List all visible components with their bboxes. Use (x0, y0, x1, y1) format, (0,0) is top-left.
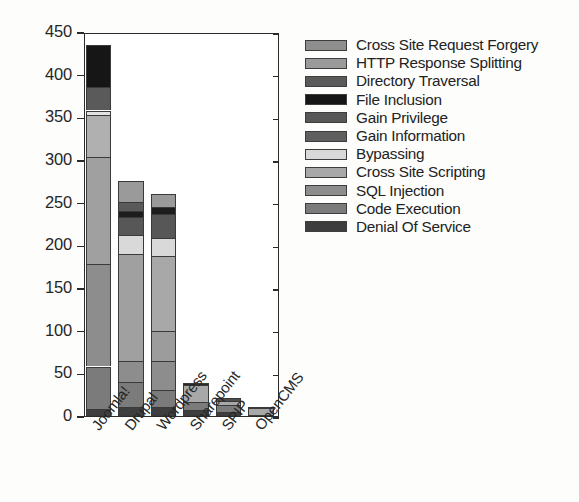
y-axis-tick-mark (77, 118, 84, 120)
legend-item[interactable]: Code Execution (305, 200, 577, 218)
bar-segment[interactable] (118, 181, 144, 201)
legend-item[interactable]: Gain Privilege (305, 109, 577, 127)
legend-item[interactable]: Gain Information (305, 127, 577, 145)
y-axis-tick-mark (77, 32, 84, 34)
y-axis-tick-mark (77, 160, 84, 162)
legend-label: HTTP Response Splitting (356, 54, 522, 72)
legend-swatch (305, 149, 347, 160)
legend-label: Cross Site Request Forgery (356, 36, 538, 54)
y-axis-tick-mark (77, 288, 84, 290)
y-axis-tick-mark-right (273, 76, 279, 78)
legend-swatch (305, 76, 347, 87)
legend-label: Gain Privilege (356, 109, 448, 127)
y-axis-tick-label: 200 (45, 235, 72, 254)
legend-item[interactable]: Cross Site Request Forgery (305, 36, 577, 54)
legend-label: Directory Traversal (356, 72, 480, 90)
legend-label: Gain Information (356, 127, 465, 145)
bar-segment[interactable] (151, 194, 177, 207)
bar-segment[interactable] (86, 115, 112, 158)
legend-swatch (305, 167, 347, 178)
y-axis-tick-mark (77, 331, 84, 333)
legend-swatch (305, 40, 347, 51)
bar-segment[interactable] (118, 235, 144, 254)
legend-label: File Inclusion (356, 91, 442, 109)
legend-swatch (305, 185, 347, 196)
legend-label: Cross Site Scripting (356, 163, 485, 181)
y-axis-tick-label: 350 (45, 107, 72, 126)
legend-item[interactable]: Directory Traversal (305, 72, 577, 90)
bar-spip[interactable] (216, 32, 242, 416)
legend-swatch (305, 94, 347, 105)
bar-segment[interactable] (86, 45, 112, 88)
bar-segment[interactable] (151, 361, 177, 391)
y-axis-tick-mark (77, 374, 84, 376)
legend-swatch (305, 58, 347, 69)
legend-item[interactable]: Cross Site Scripting (305, 163, 577, 181)
y-axis-tick-label: 100 (45, 321, 72, 340)
bar-wordpress[interactable] (151, 32, 177, 416)
bar-segment[interactable] (151, 256, 177, 331)
bar-segment[interactable] (151, 207, 177, 214)
legend-swatch (305, 112, 347, 123)
y-axis-tick-label: 50 (54, 363, 72, 382)
y-axis-tick-mark (77, 203, 84, 205)
bar-segment[interactable] (151, 331, 177, 361)
legend-label: Bypassing (356, 145, 424, 163)
legend-label: Code Execution (356, 200, 461, 218)
y-axis-tick-mark-right (273, 289, 279, 291)
legend-item[interactable]: File Inclusion (305, 91, 577, 109)
legend-label: SQL Injection (356, 182, 444, 200)
bar-segment[interactable] (118, 217, 144, 235)
legend-label: Denial Of Service (356, 218, 471, 236)
chart-legend: Cross Site Request ForgeryHTTP Response … (305, 36, 577, 236)
legend-swatch (305, 131, 347, 142)
legend-item[interactable]: Bypassing (305, 145, 577, 163)
y-axis-tick-mark-right (273, 119, 279, 121)
bar-sharepoint[interactable] (183, 32, 209, 416)
bar-segment[interactable] (86, 111, 112, 115)
y-axis-tick-mark-right (273, 204, 279, 206)
bar-segment[interactable] (118, 361, 144, 382)
y-axis-tick-mark-right (273, 247, 279, 249)
bar-segment[interactable] (86, 87, 112, 110)
bar-segment[interactable] (151, 214, 177, 238)
bar-segment[interactable] (86, 264, 112, 366)
legend-swatch (305, 203, 347, 214)
y-axis-tick-mark (77, 75, 84, 77)
legend-item[interactable]: SQL Injection (305, 182, 577, 200)
y-axis-tick-label: 250 (45, 193, 72, 212)
y-axis-tick-mark-right (273, 161, 279, 163)
legend-item[interactable]: HTTP Response Splitting (305, 54, 577, 72)
bar-opencms[interactable] (248, 32, 274, 416)
bar-joomla[interactable] (86, 32, 112, 416)
bar-drupal[interactable] (118, 32, 144, 416)
bar-segment[interactable] (151, 238, 177, 256)
y-axis-tick-mark (77, 246, 84, 248)
y-axis-tick-mark-right (273, 33, 279, 35)
plot-area (84, 33, 279, 417)
bar-segment[interactable] (86, 157, 112, 264)
y-axis-tick-label: 450 (45, 22, 72, 41)
chart-figure: 050100150200250300350400450 Joomla!Drupa… (0, 0, 579, 502)
legend-swatch (305, 221, 347, 232)
bar-segment[interactable] (118, 211, 144, 217)
y-axis-tick-label: 150 (45, 278, 72, 297)
y-axis-tick-label: 300 (45, 150, 72, 169)
y-axis-tick-label: 400 (45, 65, 72, 84)
y-axis-tick-mark-right (273, 332, 279, 334)
bar-segment[interactable] (118, 254, 144, 361)
y-axis-tick-mark-right (273, 375, 279, 377)
legend-item[interactable]: Denial Of Service (305, 218, 577, 236)
bar-segment[interactable] (118, 202, 144, 211)
x-axis: Joomla!DrupalWordpressSharepointSPIPOpen… (0, 417, 579, 502)
